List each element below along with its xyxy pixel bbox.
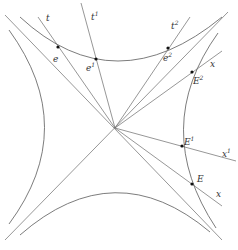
label-e1: e1	[86, 61, 95, 73]
point-E	[190, 182, 193, 185]
point-e2	[166, 46, 169, 49]
label-E2: E2	[192, 74, 204, 86]
lower-hyperbola	[20, 193, 210, 235]
label-x-lower: x	[216, 189, 221, 199]
point-e	[56, 45, 59, 48]
upper-hyperbola	[20, 17, 222, 61]
x-axis-lower	[115, 128, 222, 206]
label-t: t	[46, 13, 50, 23]
label-e: e	[53, 54, 58, 64]
x-axis-upper	[115, 51, 222, 128]
point-E2	[190, 70, 193, 73]
label-t2: t2	[171, 19, 179, 31]
label-t1: t1	[91, 10, 98, 22]
label-E1: E1	[183, 135, 194, 147]
spacetime-diagram: t t1 t2 x x1 x e e1 e2 E2 E1 E	[0, 0, 238, 250]
t2-axis	[115, 17, 190, 128]
left-hyperbola	[9, 30, 45, 224]
t-axis	[38, 17, 115, 128]
label-x1: x1	[222, 147, 231, 159]
label-E: E	[196, 174, 204, 184]
label-x-upper: x	[210, 59, 215, 69]
label-e2: e2	[163, 51, 172, 63]
x1-axis	[115, 128, 236, 161]
